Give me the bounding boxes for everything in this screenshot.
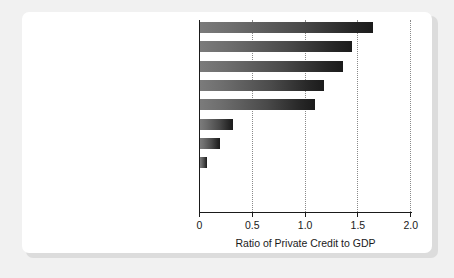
x-tick-1.0 — [305, 212, 306, 217]
bar — [200, 138, 220, 149]
x-tick-label-0.5: 0.5 — [245, 219, 260, 231]
bar — [200, 157, 207, 168]
bar — [200, 119, 233, 130]
bar — [200, 61, 343, 72]
x-tick-label-2.0: 2.0 — [403, 219, 418, 231]
gridline-1.5 — [357, 20, 359, 212]
x-tick-0.5 — [252, 212, 253, 217]
plot-area: 00.51.01.52.0 United KingdomHong KongNew… — [0, 0, 454, 278]
x-tick-label-0: 0 — [197, 219, 203, 231]
x-tick-1.5 — [357, 212, 358, 217]
bar — [200, 41, 352, 52]
x-tick-0 — [199, 212, 200, 217]
bar — [200, 99, 315, 110]
x-axis-title: Ratio of Private Credit to GDP — [199, 237, 412, 249]
bar — [200, 80, 324, 91]
figure-root: 00.51.01.52.0 United KingdomHong KongNew… — [0, 0, 454, 278]
bar — [200, 22, 373, 33]
x-tick-2.0 — [410, 212, 411, 217]
gridline-2.0 — [410, 20, 412, 212]
x-tick-label-1.5: 1.5 — [351, 219, 366, 231]
x-tick-label-1.0: 1.0 — [298, 219, 313, 231]
